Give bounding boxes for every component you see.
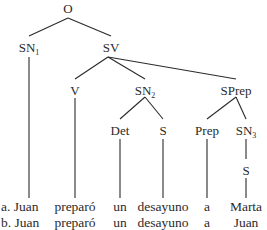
tree-node-v: V [70, 84, 79, 98]
sentence-b-word-juan: Juan [234, 215, 259, 230]
tree-edge [207, 97, 236, 119]
sentence-b-word-un: un [113, 215, 127, 230]
tree-edge [29, 18, 68, 36]
tree-edge [236, 97, 246, 119]
tree-edge [145, 97, 163, 119]
sentence-a-word-prepara: preparó [54, 199, 95, 214]
tree-node-s3: S [242, 164, 249, 178]
sentence-b-marker-word-juan: b. Juan [1, 215, 39, 230]
tree-node-det: Det [111, 124, 130, 138]
tree-edges [0, 0, 267, 230]
sentence-b-word-a: a [204, 215, 210, 230]
tree-node-o: O [63, 2, 72, 16]
sentence-a-word-un: un [113, 199, 127, 214]
tree-edge [68, 18, 111, 36]
tree-edge [120, 97, 145, 119]
tree-node-sv: SV [103, 41, 120, 55]
sentence-a-word-a: a [204, 199, 210, 214]
tree-edge [75, 57, 108, 79]
sentence-a-marker-word-juan: a. Juan [1, 199, 39, 214]
tree-node-s2: S [159, 124, 166, 138]
tree-node-sn2: SN2 [135, 84, 156, 98]
tree-node-sn3: SN3 [236, 124, 257, 138]
sentence-b-word-desayuno: desayuno [138, 215, 189, 230]
tree-node-sn1: SN1 [19, 41, 40, 55]
sentence-a-word-marta: Marta [230, 199, 262, 214]
tree-node-sprep: SPrep [220, 84, 251, 98]
sentence-b-word-prepara: preparó [54, 215, 95, 230]
tree-node-prep: Prep [195, 124, 219, 138]
sentence-a-word-desayuno: desayuno [138, 199, 189, 214]
